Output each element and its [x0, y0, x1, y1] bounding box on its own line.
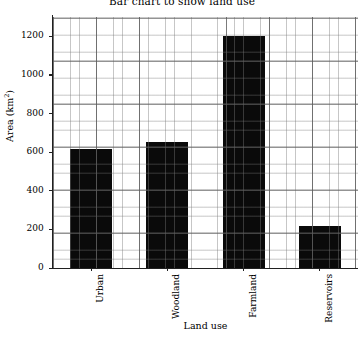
plot-area	[53, 17, 358, 268]
y-tick-label: 200	[27, 223, 44, 234]
major-gridlines	[53, 17, 358, 268]
x-axis-label: Land use	[53, 320, 358, 331]
x-tick-label-text: Reservoirs	[324, 274, 333, 323]
y-tick-label: 400	[27, 185, 44, 196]
x-tick-label-text: Farmland	[248, 274, 257, 318]
y-tick-mark	[49, 74, 52, 75]
y-axis-label-tail: )	[4, 90, 15, 94]
y-tick-mark	[49, 229, 52, 230]
y-tick-mark	[49, 113, 52, 114]
x-tick-label-text: Woodland	[172, 274, 181, 319]
y-tick-mark	[49, 268, 52, 269]
y-axis-label: Area (km2)	[4, 90, 15, 142]
y-axis-label-exponent: 2	[3, 94, 11, 98]
y-axis-spine	[52, 15, 53, 269]
y-tick-mark	[49, 36, 52, 37]
y-tick-mark	[49, 190, 52, 191]
chart-title: Bar chart to show land use	[0, 0, 364, 7]
y-axis-label-text: Area (km	[4, 98, 15, 142]
x-tick-label: Woodland	[167, 229, 176, 274]
y-tick-label: 600	[27, 146, 44, 157]
y-tick-label: 0	[38, 262, 44, 273]
x-tick-label: Reservoirs	[320, 225, 329, 274]
x-tick-label-text: Urban	[96, 274, 105, 303]
x-tick-label: Urban	[91, 245, 100, 274]
x-tick-label: Farmland	[244, 230, 253, 274]
bar-chart-figure: Bar chart to show land use 0200400600800…	[0, 0, 364, 342]
y-tick-mark	[49, 152, 52, 153]
y-tick-label: 800	[27, 108, 44, 119]
y-tick-label: 1000	[21, 69, 44, 80]
y-tick-label: 1200	[21, 30, 44, 41]
